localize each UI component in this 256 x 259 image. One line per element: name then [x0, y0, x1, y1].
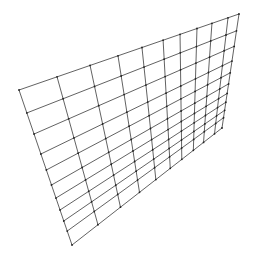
- grid-vertex: [73, 137, 75, 139]
- grid-vertex: [223, 117, 225, 119]
- grid-vertex: [194, 113, 196, 115]
- grid-vertex: [128, 125, 130, 127]
- grid-vertex: [193, 131, 195, 133]
- grid-vertex: [228, 83, 230, 85]
- grid-vertex: [153, 158, 155, 160]
- grid-vertex: [216, 115, 218, 117]
- grid-vertex: [195, 62, 197, 64]
- grid-vertex: [231, 60, 233, 62]
- grid-vertex: [165, 92, 167, 94]
- grid-vertex: [85, 179, 87, 181]
- grid-vertex: [218, 98, 220, 100]
- grid-vertex: [88, 190, 90, 192]
- grid-vertex: [179, 52, 181, 54]
- warped-grid-mesh: [0, 0, 256, 259]
- grid-vertex: [134, 161, 136, 163]
- grid-vertex: [120, 206, 122, 208]
- grid-vertex: [222, 65, 224, 67]
- grid-vertex: [225, 34, 227, 36]
- grid-vertex: [45, 169, 47, 171]
- grid-vertex: [181, 158, 183, 160]
- grid-vertex: [110, 163, 112, 165]
- grid-vertex: [26, 112, 28, 114]
- grid-vertex: [196, 28, 198, 30]
- grid-vertex: [167, 129, 169, 131]
- grid-vertex: [233, 45, 235, 47]
- grid-vertex: [193, 122, 195, 124]
- grid-vertex: [105, 138, 107, 140]
- grid-vertex: [238, 13, 240, 15]
- grid-row-line: [64, 110, 225, 221]
- grid-vertex: [169, 156, 171, 158]
- grid-vertex: [195, 78, 197, 80]
- grid-vertices: [18, 13, 240, 246]
- grid-vertex: [143, 66, 145, 68]
- grid-vertex: [150, 128, 152, 130]
- grid-row-line: [60, 102, 226, 210]
- grid-vertex: [62, 98, 64, 100]
- grid-vertex: [219, 88, 221, 90]
- grid-vertex: [113, 174, 115, 176]
- grid-vertex: [167, 118, 169, 120]
- grid-vertex: [154, 167, 156, 169]
- grid-vertex: [180, 121, 182, 123]
- grid-row-line: [27, 31, 237, 113]
- grid-row-lines: [19, 14, 239, 245]
- grid-vertex: [123, 94, 125, 96]
- grid-vertex: [203, 141, 205, 143]
- grid-vertex: [63, 220, 65, 222]
- grid-vertex: [166, 105, 168, 107]
- grid-vertex: [163, 58, 165, 60]
- grid-vertex: [168, 148, 170, 150]
- grid-vertex: [102, 123, 104, 125]
- grid-vertex: [194, 102, 196, 104]
- grid-vertex: [164, 76, 166, 78]
- grid-vertex: [40, 153, 42, 155]
- grid-vertex: [55, 197, 57, 199]
- grid-vertex: [193, 138, 195, 140]
- grid-vertex: [108, 151, 110, 153]
- grid-vertex: [211, 22, 213, 24]
- grid-vertex: [151, 139, 153, 141]
- grid-vertex: [221, 127, 223, 129]
- grid-vertex: [205, 105, 207, 107]
- grid-vertex: [130, 139, 132, 141]
- grid-row-line: [56, 93, 227, 198]
- grid-vertex: [217, 107, 219, 109]
- grid-vertex: [225, 101, 227, 103]
- grid-vertex: [18, 89, 20, 91]
- grid-vertex: [132, 150, 134, 152]
- grid-vertex: [209, 56, 211, 58]
- grid-vertex: [224, 109, 226, 111]
- grid-vertex: [210, 40, 212, 42]
- grid-vertex: [180, 110, 182, 112]
- grid-vertex: [117, 194, 119, 196]
- grid-vertex: [236, 30, 238, 32]
- grid-vertex: [94, 86, 96, 88]
- grid-vertex: [180, 98, 182, 100]
- grid-vertex: [205, 115, 207, 117]
- grid-vertex: [206, 95, 208, 97]
- grid-vertex: [126, 111, 128, 113]
- grid-vertex: [51, 184, 53, 186]
- grid-vertex: [227, 17, 229, 19]
- grid-vertex: [91, 201, 93, 203]
- grid-vertex: [147, 101, 149, 103]
- grid-row-line: [46, 73, 230, 170]
- grid-vertex: [207, 84, 209, 86]
- grid-vertex: [135, 170, 137, 172]
- grid-column-lines: [19, 14, 239, 245]
- grid-vertex: [141, 47, 143, 49]
- grid-vertex: [168, 139, 170, 141]
- grid-vertex: [180, 69, 182, 71]
- grid-vertex: [196, 46, 198, 48]
- grid-vertex: [203, 131, 205, 133]
- grid-vertex: [33, 133, 35, 135]
- grid-vertex: [68, 118, 70, 120]
- diagram-canvas: [0, 0, 256, 259]
- grid-vertex: [120, 75, 122, 77]
- grid-vertex: [81, 167, 83, 169]
- grid-vertex: [181, 147, 183, 149]
- grid-vertex: [59, 209, 61, 211]
- grid-vertex: [215, 123, 217, 125]
